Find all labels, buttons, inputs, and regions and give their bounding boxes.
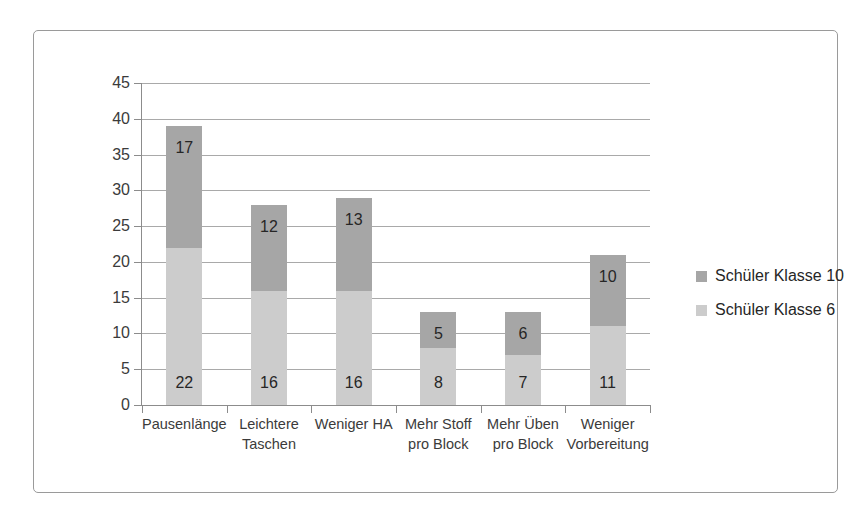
x-axis-category-label-line: pro Block (396, 435, 481, 455)
x-axis-category-label-line: Taschen (227, 435, 312, 455)
bar-segment-klasse-10[interactable]: 5 (420, 312, 456, 348)
y-axis-tick-label: 0 (94, 397, 130, 413)
legend-label: Schüler Klasse 6 (715, 302, 835, 318)
y-axis-tick-label: 25 (94, 218, 130, 234)
x-axis-category-label: WenigerVorbereitung (565, 415, 650, 454)
y-axis-tick (134, 262, 141, 263)
legend-label: Schüler Klasse 10 (715, 268, 844, 284)
bar-value-label: 11 (590, 375, 626, 391)
x-axis-tick (142, 406, 143, 413)
x-axis-tick (481, 406, 482, 413)
x-axis-category-label: Mehr Stoffpro Block (396, 415, 481, 454)
y-axis-tick (134, 119, 141, 120)
y-axis-tick-label: 10 (94, 325, 130, 341)
stacked-bar[interactable]: 58 (420, 312, 456, 405)
y-axis-tick-label: 15 (94, 290, 130, 306)
plot-area: 17221216131658671011 (142, 83, 650, 405)
y-axis-tick (134, 155, 141, 156)
bar-value-label: 17 (166, 140, 202, 156)
bar-value-label: 16 (336, 375, 372, 391)
y-axis-tick (134, 369, 141, 370)
y-axis-tick-label: 40 (94, 111, 130, 127)
y-axis-tick (134, 226, 141, 227)
x-axis-tick (565, 406, 566, 413)
bar-value-label: 7 (505, 375, 541, 391)
bar-segment-klasse-10[interactable]: 6 (505, 312, 541, 355)
bar-value-label: 10 (590, 269, 626, 285)
bar-segment-klasse-6[interactable]: 16 (251, 291, 287, 405)
x-axis-tick (311, 406, 312, 413)
x-axis-category-label-line: Leichtere (227, 415, 312, 435)
x-axis-category-label-line: Weniger HA (311, 415, 396, 435)
stacked-bar[interactable]: 1722 (166, 126, 202, 405)
chart-legend: Schüler Klasse 10Schüler Klasse 6 (696, 259, 861, 327)
x-axis-category-label: Pausenlänge (142, 415, 227, 435)
y-axis-tick (134, 405, 141, 406)
x-axis-category-label-line: Weniger (565, 415, 650, 435)
bar-segment-klasse-6[interactable]: 8 (420, 348, 456, 405)
x-axis-category-label-line: Mehr Üben (481, 415, 566, 435)
y-axis-tick-label: 30 (94, 182, 130, 198)
x-axis-category-label-line: Mehr Stoff (396, 415, 481, 435)
bar-segment-klasse-6[interactable]: 22 (166, 248, 202, 405)
legend-swatch-icon (696, 305, 707, 316)
chart-screenshot: 454035302520151050 17221216131658671011 … (0, 0, 866, 524)
y-axis-tick (134, 83, 141, 84)
x-axis-category-label-line: Pausenlänge (142, 415, 227, 435)
y-axis-tick-labels: 454035302520151050 (88, 31, 130, 492)
chart-frame: 454035302520151050 17221216131658671011 … (33, 30, 838, 493)
legend-item[interactable]: Schüler Klasse 10 (696, 259, 861, 293)
y-axis-tick (134, 190, 141, 191)
bar-segment-klasse-6[interactable]: 16 (336, 291, 372, 405)
legend-swatch-icon (696, 271, 707, 282)
y-axis-tick (134, 298, 141, 299)
bar-value-label: 6 (505, 326, 541, 342)
y-axis-tick-label: 35 (94, 147, 130, 163)
bar-value-label: 22 (166, 375, 202, 391)
bar-value-label: 13 (336, 212, 372, 228)
bar-value-label: 16 (251, 375, 287, 391)
y-axis-tick (134, 333, 141, 334)
bar-segment-klasse-6[interactable]: 11 (590, 326, 626, 405)
stacked-bar[interactable]: 1011 (590, 255, 626, 405)
stacked-bar[interactable]: 1216 (251, 205, 287, 405)
stacked-bar[interactable]: 1316 (336, 198, 372, 406)
bar-segment-klasse-6[interactable]: 7 (505, 355, 541, 405)
x-axis-tick (396, 406, 397, 413)
x-axis-category-label: Weniger HA (311, 415, 396, 435)
bar-segment-klasse-10[interactable]: 13 (336, 198, 372, 291)
x-axis-category-labels: PausenlängeLeichtereTaschenWeniger HAMeh… (142, 415, 650, 475)
x-axis-tick (227, 406, 228, 413)
bar-segment-klasse-10[interactable]: 10 (590, 255, 626, 327)
y-axis-tick-label: 5 (94, 361, 130, 377)
bar-value-label: 12 (251, 219, 287, 235)
x-axis-category-label-line: Vorbereitung (565, 435, 650, 455)
x-axis-category-label-line: pro Block (481, 435, 566, 455)
stacked-bar[interactable]: 67 (505, 312, 541, 405)
x-axis-category-label: Mehr Übenpro Block (481, 415, 566, 454)
bar-value-label: 5 (420, 326, 456, 342)
x-axis-category-label: LeichtereTaschen (227, 415, 312, 454)
bar-value-label: 8 (420, 375, 456, 391)
y-axis-tick-label: 20 (94, 254, 130, 270)
bar-segment-klasse-10[interactable]: 17 (166, 126, 202, 248)
y-axis-tick-label: 45 (94, 75, 130, 91)
legend-item[interactable]: Schüler Klasse 6 (696, 293, 861, 327)
x-axis-tick (650, 406, 651, 413)
bar-segment-klasse-10[interactable]: 12 (251, 205, 287, 291)
